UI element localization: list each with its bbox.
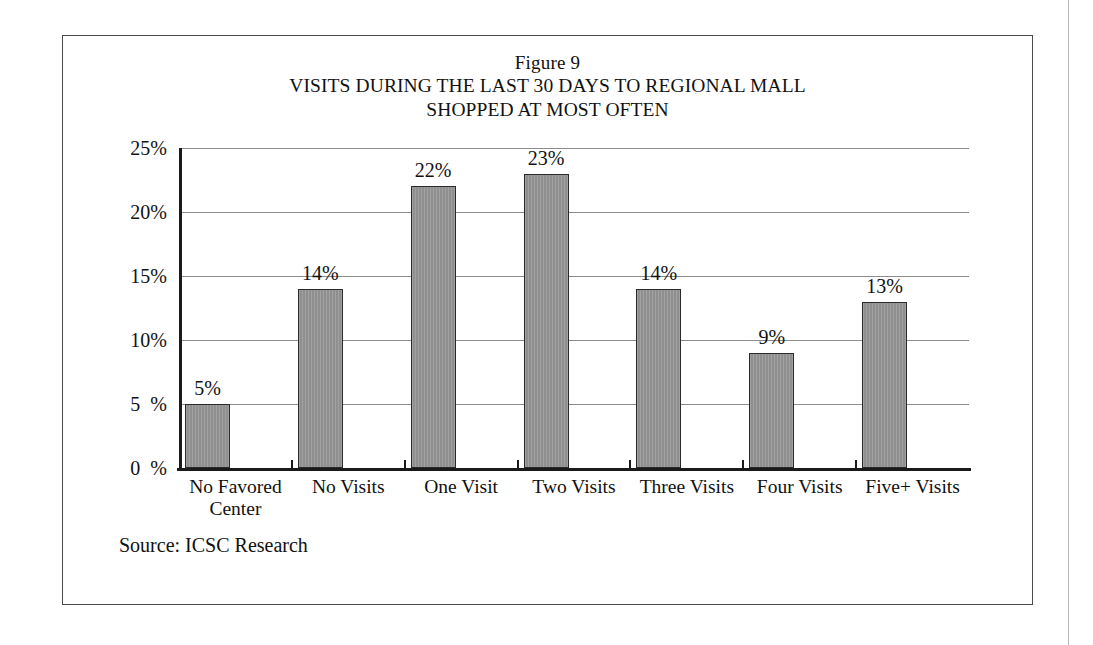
bar[interactable] <box>185 404 230 468</box>
x-axis-tick <box>404 460 406 469</box>
y-axis-tick-label: 10% <box>97 329 167 352</box>
bar-value-label: 13% <box>845 275 925 298</box>
chart-title-line-2: SHOPPED AT MOST OFTEN <box>63 98 1032 122</box>
gridline <box>179 212 969 213</box>
bar[interactable] <box>636 289 681 468</box>
chart-title-block: Figure 9 VISITS DURING THE LAST 30 DAYS … <box>63 51 1032 122</box>
x-axis-tick <box>742 460 744 469</box>
page-scan-edge <box>1068 0 1069 645</box>
y-axis-tick-label: 25% <box>97 137 167 160</box>
bar-value-label: 5% <box>168 377 248 400</box>
chart-title-line-1: VISITS DURING THE LAST 30 DAYS TO REGION… <box>63 74 1032 98</box>
figure-number: Figure 9 <box>63 51 1032 74</box>
bar[interactable] <box>524 174 569 468</box>
bar[interactable] <box>749 353 794 468</box>
bar-value-label: 9% <box>732 326 812 349</box>
bar[interactable] <box>862 302 907 468</box>
bar[interactable] <box>411 186 456 468</box>
x-axis-category-label: Five+ Visits <box>828 476 997 498</box>
bar-value-label: 14% <box>280 262 360 285</box>
y-axis-tick-label: 20% <box>97 201 167 224</box>
bar-value-label: 23% <box>506 147 586 170</box>
figure-frame: Figure 9 VISITS DURING THE LAST 30 DAYS … <box>62 35 1033 605</box>
y-axis-tick-label: 5 % <box>97 393 167 416</box>
bar[interactable] <box>298 289 343 468</box>
x-axis-tick <box>291 460 293 469</box>
plot-area: 0 %5 %10%15%20%25% 5%14%22%23%14%9%13% N… <box>179 148 969 468</box>
x-axis-line <box>177 468 971 471</box>
source-note: Source: ICSC Research <box>119 534 308 557</box>
x-axis-tick <box>629 460 631 469</box>
y-axis-tick-label: 15% <box>97 265 167 288</box>
bar-value-label: 14% <box>619 262 699 285</box>
x-axis-tick <box>517 460 519 469</box>
x-axis-tick <box>855 460 857 469</box>
bar-value-label: 22% <box>393 159 473 182</box>
y-axis-line <box>179 148 182 468</box>
